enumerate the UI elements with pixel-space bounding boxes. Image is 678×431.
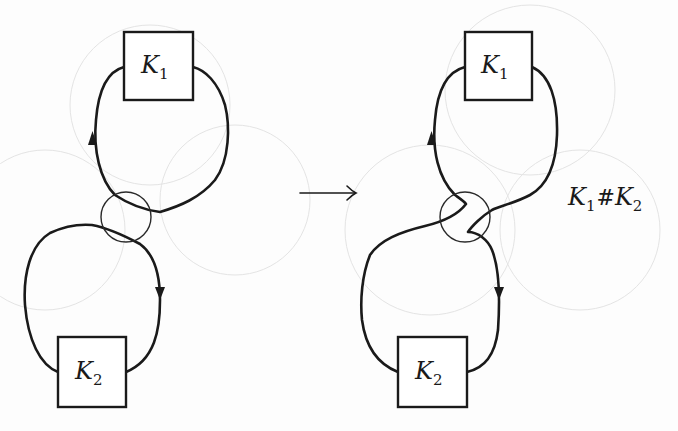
right-connected-sum: K1 K2 K1#K2	[361, 32, 642, 407]
left-knots: K1 K2	[25, 32, 228, 407]
connected-sum-diagram: K1 K2 K1 K2 K1#K2	[0, 0, 678, 431]
connected-sum-label: K1#K2	[567, 183, 642, 215]
sum-right-strand	[467, 67, 557, 372]
transformation-arrow-icon	[300, 186, 356, 200]
k2-orientation-arrow-icon	[155, 287, 165, 300]
sum-left-strand	[361, 67, 466, 372]
sum-k2-orientation-arrow-icon	[494, 287, 504, 300]
left-surgery-circle	[101, 192, 151, 242]
